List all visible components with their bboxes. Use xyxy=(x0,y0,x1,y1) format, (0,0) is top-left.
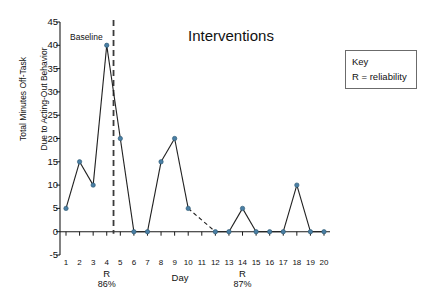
data-line-segment xyxy=(93,45,107,185)
data-line-segment xyxy=(120,139,134,232)
data-point xyxy=(105,43,109,47)
data-point xyxy=(77,160,81,164)
data-line-segment xyxy=(283,185,297,232)
data-line-segment xyxy=(297,185,311,232)
data-point xyxy=(159,160,163,164)
x-axis-tick-label: 19 xyxy=(306,258,315,267)
x-axis-tick-label: 11 xyxy=(198,258,206,267)
x-axis-tick-label: 2 xyxy=(77,258,81,267)
reliability-symbol: R xyxy=(234,268,252,279)
x-axis-tick-label: 1 xyxy=(64,258,68,267)
data-point xyxy=(186,206,190,210)
x-axis-tick-label: 20 xyxy=(320,258,329,267)
reliability-mark: R87% xyxy=(234,268,252,290)
data-point xyxy=(281,230,285,234)
data-point xyxy=(213,230,217,234)
x-axis-tick-label: 13 xyxy=(224,258,233,267)
interventions-label: Interventions xyxy=(188,27,274,44)
data-point xyxy=(308,230,312,234)
data-point xyxy=(322,230,326,234)
x-axis-tick-label: 16 xyxy=(265,258,274,267)
x-axis-tick-label: 18 xyxy=(292,258,301,267)
x-axis-tick-label: 6 xyxy=(132,258,136,267)
data-line-segment xyxy=(161,139,175,162)
x-axis-tick-label: 15 xyxy=(252,258,261,267)
data-line-missing-segment xyxy=(188,208,215,231)
data-point xyxy=(132,230,136,234)
x-axis-tick-label: 9 xyxy=(172,258,176,267)
key-box: Key R = reliability xyxy=(345,50,417,89)
data-point xyxy=(172,136,176,140)
x-axis-tick-label: 5 xyxy=(118,258,122,267)
x-axis-tick-label: 4 xyxy=(105,258,109,267)
data-point xyxy=(240,206,244,210)
data-line-segment xyxy=(66,162,80,209)
x-axis-tick-label: 8 xyxy=(159,258,163,267)
reliability-percent: 87% xyxy=(234,279,252,290)
data-point xyxy=(254,230,258,234)
reliability-mark: R86% xyxy=(98,268,116,290)
data-point xyxy=(227,230,231,234)
key-title: Key xyxy=(352,56,410,67)
data-point xyxy=(118,136,122,140)
data-point xyxy=(91,183,95,187)
data-point xyxy=(64,206,68,210)
chart-container: Total Minutes Off-Task Due to Acting-Out… xyxy=(0,0,432,308)
data-line-segment xyxy=(243,208,257,231)
x-axis-tick-label: 10 xyxy=(184,258,193,267)
x-axis-tick-label: 7 xyxy=(145,258,149,267)
reliability-percent: 86% xyxy=(98,279,116,290)
x-axis-tick-label: 17 xyxy=(279,258,288,267)
data-line-segment xyxy=(229,208,243,231)
key-entry-reliability: R = reliability xyxy=(352,71,410,82)
x-axis-tick-label: 3 xyxy=(91,258,95,267)
data-line-segment xyxy=(147,162,161,232)
data-line-segment xyxy=(175,139,189,209)
data-point xyxy=(267,230,271,234)
data-point xyxy=(145,230,149,234)
x-axis-title: Day xyxy=(150,272,210,283)
data-line-segment xyxy=(80,162,94,185)
reliability-symbol: R xyxy=(98,268,116,279)
baseline-label: Baseline xyxy=(70,32,103,42)
x-axis-tick-label: 12 xyxy=(211,258,220,267)
x-axis-tick-label: 14 xyxy=(238,258,247,267)
data-point xyxy=(295,183,299,187)
